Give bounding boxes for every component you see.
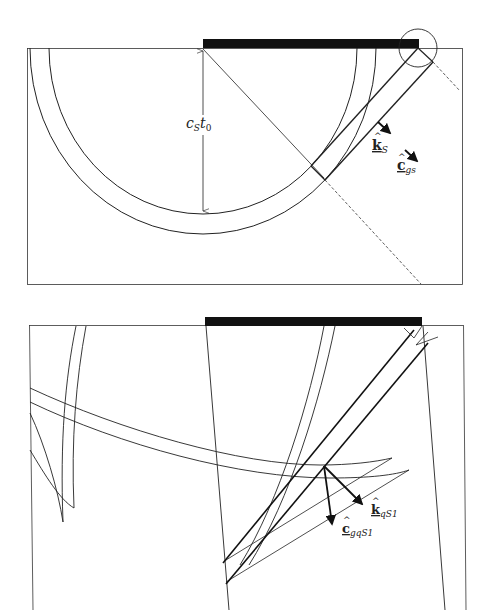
bottom-left-cusp-2 [30, 450, 74, 508]
top-strip-cap-top [418, 48, 433, 62]
diagram: cSt0 kS ^ cgs ^ [0, 0, 487, 610]
top-panel: cSt0 kS ^ cgs ^ [28, 29, 463, 285]
bottom-group-velocity-hat: ^ [343, 515, 351, 525]
bottom-mid-arc-2 [249, 326, 335, 565]
top-dashed-lower [325, 180, 421, 284]
bottom-strip-upper [223, 330, 414, 563]
top-dashed-upper [433, 62, 460, 91]
top-strip-cap-bottom [311, 166, 325, 180]
bottom-wave-vector-hat: ^ [372, 496, 380, 506]
bottom-frame-left [30, 325, 34, 610]
top-group-velocity-hat: ^ [398, 152, 406, 162]
bottom-left-arc-1 [62, 326, 76, 522]
bottom-frame-right [464, 325, 467, 610]
top-source-bar [203, 39, 419, 48]
bottom-panel: kqS1 ^ cgqS1 ^ [29, 317, 466, 610]
bottom-left-cusp-1 [30, 413, 63, 522]
top-radius-label: cSt0 [186, 115, 212, 133]
bottom-source-bar [205, 317, 422, 326]
bottom-left-arc-2 [73, 326, 86, 508]
bottom-fan-line-1 [226, 458, 392, 560]
bottom-vertical-left [206, 326, 229, 610]
bottom-vertical-right [423, 326, 445, 610]
bottom-wave-vector-arrow [324, 466, 362, 504]
bottom-group-velocity-arrow [324, 466, 332, 524]
bottom-long-band-lower [30, 402, 409, 478]
top-group-velocity-arrow [405, 150, 417, 161]
bottom-strip-lower [226, 343, 428, 584]
top-strip-upper [311, 48, 418, 166]
top-ray-line [203, 49, 324, 178]
bottom-long-band-upper [30, 388, 392, 465]
bottom-mid-arc-1 [240, 326, 324, 565]
top-wave-vector-hat: ^ [374, 131, 382, 141]
